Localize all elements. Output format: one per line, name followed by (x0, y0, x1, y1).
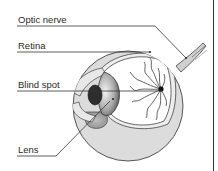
eye-diagram: Optic nerve Retina Blind spot Lens (0, 0, 218, 171)
label-retina: Retina (18, 41, 45, 51)
optic-nerve-shape (176, 43, 207, 72)
iris (88, 85, 102, 105)
label-optic-nerve: Optic nerve (18, 15, 67, 25)
label-lens: Lens (18, 145, 39, 155)
label-blind-spot: Blind spot (18, 80, 60, 90)
